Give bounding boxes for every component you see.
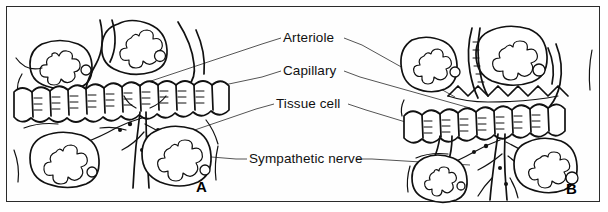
figure-container: .ink{fill:none;stroke:#111;stroke-width:… — [0, 0, 608, 212]
tissue-cell-a3 — [30, 132, 99, 187]
capillary-a — [14, 81, 229, 122]
panel-a-drawing — [14, 20, 229, 188]
panel-label-b: B — [566, 180, 577, 197]
capillary-b — [404, 104, 565, 143]
label-tissue-cell: Tissue cell — [276, 97, 340, 111]
label-arteriole: Arteriole — [283, 31, 334, 45]
panel-label-a: A — [196, 178, 207, 195]
label-capillary: Capillary — [283, 64, 336, 78]
tissue-cell-b1 — [401, 37, 460, 92]
tissue-cell-b2 — [476, 26, 547, 85]
label-sympathetic-nerve: Sympathetic nerve — [249, 152, 363, 166]
tissue-cell-a2 — [102, 21, 167, 75]
tissue-cell-a1 — [30, 41, 92, 90]
panel-b-drawing — [401, 26, 592, 202]
tissue-cell-b3 — [412, 155, 467, 202]
